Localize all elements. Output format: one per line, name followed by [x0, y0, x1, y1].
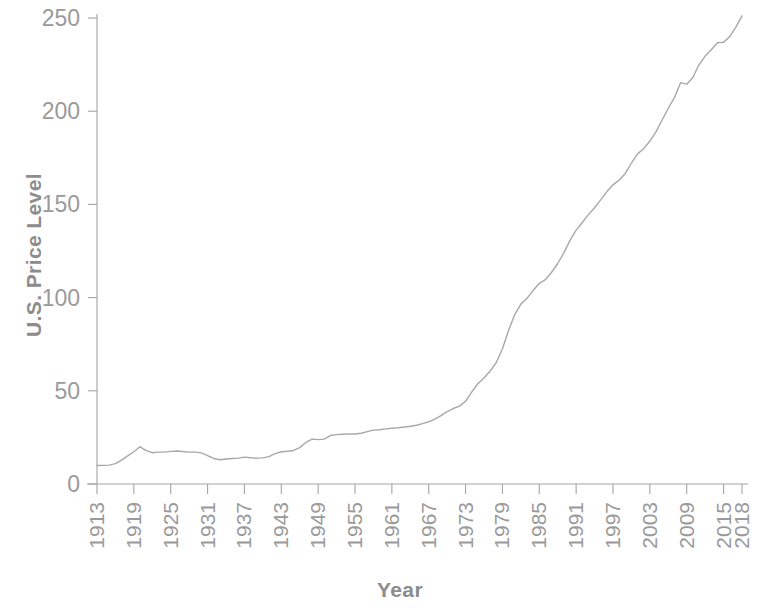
- x-tick-label: 1997: [601, 502, 624, 549]
- x-tick-label: 1913: [85, 502, 108, 549]
- x-tick-label: 1925: [159, 502, 182, 549]
- x-tick-label: 1949: [306, 502, 329, 549]
- x-axis-tick-labels: 1913191919251931193719431949195519611967…: [85, 502, 753, 549]
- x-tick-label: 1943: [269, 502, 292, 549]
- x-tick-label: 1985: [527, 502, 550, 549]
- x-tick-label: 1979: [490, 502, 513, 549]
- y-axis-title: U.S. Price Level: [22, 155, 46, 355]
- x-tick-label: 1919: [122, 502, 145, 549]
- y-axis-tick-labels: 050100150200250: [42, 5, 80, 497]
- y-tick-label: 200: [42, 98, 80, 124]
- y-tick-label: 100: [42, 285, 80, 311]
- x-tick-label: 2018: [730, 502, 753, 549]
- x-tick-label: 1955: [343, 502, 366, 549]
- x-axis-tick-marks: [97, 484, 742, 494]
- x-tick-label: 2009: [675, 502, 698, 549]
- x-tick-label: 1967: [417, 502, 440, 549]
- chart-plot-area: 050100150200250 191319191925193119371943…: [0, 0, 775, 611]
- x-tick-label: 1931: [196, 502, 219, 549]
- y-tick-label: 0: [67, 471, 80, 497]
- x-tick-label: 1991: [564, 502, 587, 549]
- x-tick-label: 1961: [380, 502, 403, 549]
- x-tick-label: 1937: [232, 502, 255, 549]
- x-tick-label: 1973: [454, 502, 477, 549]
- y-tick-label: 150: [42, 191, 80, 217]
- x-tick-label: 2003: [638, 502, 661, 549]
- x-axis-title: Year: [300, 578, 500, 602]
- price-level-series-line: [97, 16, 742, 466]
- price-level-line-chart: 050100150200250 191319191925193119371943…: [0, 0, 775, 611]
- y-tick-label: 50: [54, 378, 80, 404]
- y-axis-tick-marks: [88, 18, 97, 484]
- y-tick-label: 250: [42, 5, 80, 31]
